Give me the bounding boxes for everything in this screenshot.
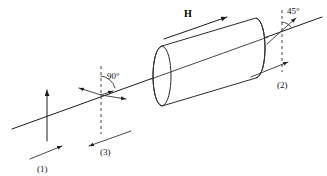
angle-station-90: 90° xyxy=(79,66,126,134)
physics-diagram: H 90° 45° xyxy=(0,0,327,176)
marker-three-label: (3) xyxy=(100,147,111,157)
angle-station-45: 45° xyxy=(267,6,300,72)
marker-one-label: (1) xyxy=(37,164,48,174)
angle-label-90: 90° xyxy=(107,71,120,81)
marker-two-label: (2) xyxy=(277,80,288,90)
figure-canvas: H 90° 45° xyxy=(0,0,327,176)
angle-label-45: 45° xyxy=(287,6,300,16)
marker-three-arrow xyxy=(89,131,131,146)
marker-one-arrow xyxy=(30,146,62,159)
field-label: H xyxy=(184,8,192,19)
marker-three-group: (3) xyxy=(89,131,131,157)
marker-one-group: (1) xyxy=(30,90,62,174)
cylinder-group xyxy=(151,18,268,106)
inplane-arrow-left xyxy=(79,88,101,95)
inplane-arrow-right xyxy=(101,95,126,99)
